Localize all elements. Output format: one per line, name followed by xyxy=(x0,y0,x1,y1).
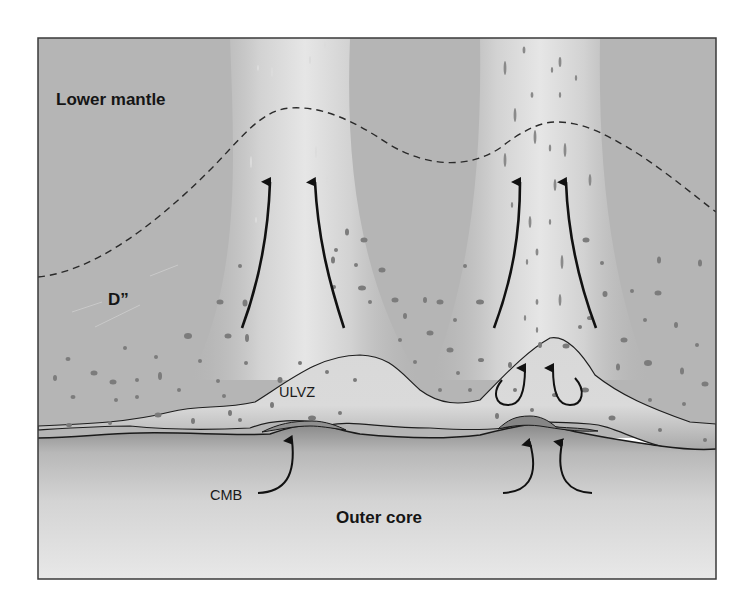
outer-core-region xyxy=(38,425,716,579)
label-ulvz: ULVZ xyxy=(279,384,315,400)
mantle-plume-diagram: Lower mantle D” ULVZ CMB Outer core xyxy=(0,0,745,615)
label-outer-core: Outer core xyxy=(336,508,422,527)
label-lower-mantle: Lower mantle xyxy=(56,90,166,109)
label-d-double-prime: D” xyxy=(108,290,129,309)
label-cmb: CMB xyxy=(210,487,242,503)
